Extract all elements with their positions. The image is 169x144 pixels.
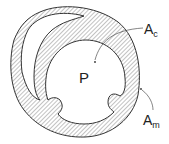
label-ac: Ac [144, 22, 158, 39]
ac-point [94, 61, 96, 63]
am-point [140, 88, 142, 90]
label-am: Am [143, 113, 160, 130]
label-ac-sub: c [153, 29, 158, 39]
label-ac-main: A [144, 21, 153, 37]
label-am-sub: m [152, 120, 160, 130]
am-leader-line [142, 90, 153, 110]
label-am-main: A [143, 112, 152, 128]
label-p: P [79, 70, 89, 85]
label-p-text: P [79, 69, 89, 86]
outer-wall [11, 7, 140, 137]
